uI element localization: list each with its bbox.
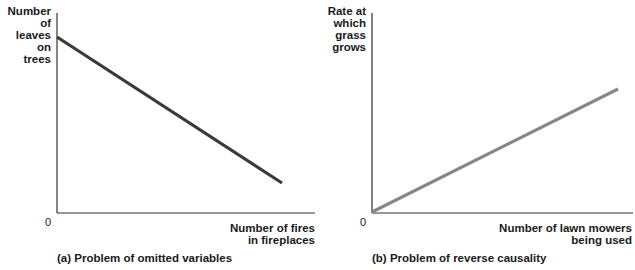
origin-label: 0 [360, 216, 366, 228]
x-label-line: being used [432, 234, 632, 246]
panel-omitted-variables: Number of leaves on trees 0 Number of fi… [0, 0, 318, 270]
y-label-line: grows [315, 41, 366, 53]
y-label-line: trees [0, 53, 51, 65]
x-label-line: Number of lawn mowers [432, 222, 632, 234]
chart-caption: (b) Problem of reverse causality [372, 252, 546, 264]
y-label-line: grass [315, 29, 366, 41]
y-label-line: leaves on [0, 29, 51, 53]
y-axis-label: Rate at which grass grows [315, 5, 366, 53]
y-label-line: which [315, 17, 366, 29]
x-label-line: in fireplaces [175, 234, 315, 246]
y-label-line: Rate at [315, 5, 366, 17]
x-axis-label: Number of lawn mowers being used [432, 222, 632, 246]
data-line-positive [372, 89, 618, 212]
y-label-line: Number of [0, 5, 51, 29]
chart-caption: (a) Problem of omitted variables [57, 252, 232, 264]
origin-label: 0 [45, 216, 51, 228]
data-line-negative [57, 37, 282, 183]
x-axis-label: Number of fires in fireplaces [175, 222, 315, 246]
panel-reverse-causality: Rate at which grass grows 0 Number of la… [315, 0, 635, 270]
y-axis-label: Number of leaves on trees [0, 5, 51, 65]
x-label-line: Number of fires [175, 222, 315, 234]
